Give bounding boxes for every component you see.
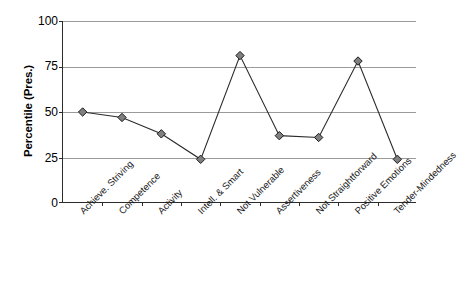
y-tick-label-100: 100 <box>18 15 58 27</box>
data-point-marker <box>236 51 244 59</box>
data-point-marker <box>314 133 322 141</box>
y-tick-label-75: 75 <box>18 60 58 72</box>
data-point-marker <box>354 57 362 65</box>
data-point-marker <box>118 113 126 121</box>
series-markers <box>78 51 401 163</box>
y-tick-label-25: 25 <box>18 152 58 164</box>
data-point-marker <box>157 130 165 138</box>
series-line <box>83 56 398 160</box>
data-point-marker <box>78 108 86 116</box>
x-axis-tick-labels: Achieve. StrivingCompetenceActivityIntel… <box>0 203 427 307</box>
data-point-marker <box>275 131 283 139</box>
data-point-marker <box>196 155 204 163</box>
y-tick-label-50: 50 <box>18 106 58 118</box>
